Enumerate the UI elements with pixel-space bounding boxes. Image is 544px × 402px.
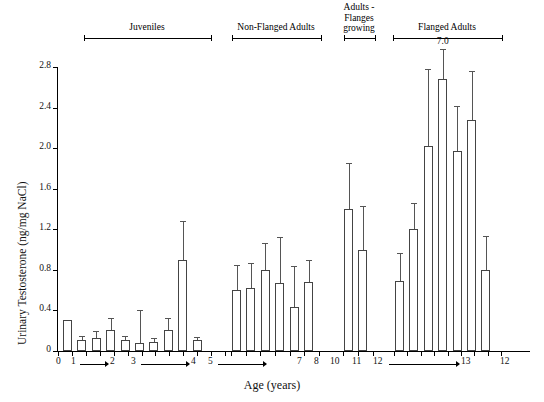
x-axis-label: 10 <box>330 356 340 366</box>
y-tick-label: 2.8 <box>18 60 51 70</box>
error-bar-line <box>265 243 266 269</box>
error-bar-line <box>96 331 97 338</box>
x-range-connector <box>141 362 189 367</box>
bar[interactable] <box>77 340 86 351</box>
x-tick <box>142 351 143 356</box>
bar[interactable] <box>290 307 299 351</box>
bar[interactable] <box>344 209 353 351</box>
error-bar-cap <box>122 336 128 337</box>
error-bar-cap <box>151 338 157 339</box>
x-axis-label: 5 <box>208 356 213 366</box>
x-tick <box>260 351 261 356</box>
x-tick <box>275 351 276 356</box>
y-tick-label: 0 <box>18 344 51 354</box>
y-tick <box>53 310 57 311</box>
error-bar-cap <box>79 336 85 337</box>
x-tick <box>100 351 101 356</box>
error-bar-line <box>428 69 429 146</box>
bar[interactable] <box>304 282 313 351</box>
x-tick <box>86 351 87 356</box>
error-bar-line <box>400 253 401 281</box>
y-tick <box>53 270 57 271</box>
x-range-connector <box>218 362 266 367</box>
y-tick-label: 1.2 <box>18 222 51 232</box>
x-tick <box>319 351 320 356</box>
x-axis-label: 4 <box>191 356 196 366</box>
x-axis-label: 13 <box>461 356 471 366</box>
x-tick <box>434 351 435 356</box>
error-bar-cap <box>194 337 200 338</box>
y-tick <box>53 67 57 68</box>
x-tick <box>304 351 305 356</box>
x-axis-label: 0 <box>56 356 61 366</box>
bar[interactable] <box>92 338 101 351</box>
chart-root: Juveniles Non-Flanged Adults Adults - Fl… <box>0 0 544 402</box>
y-tick <box>53 108 57 109</box>
x-axis-label: 12 <box>500 356 510 366</box>
error-bar-cap <box>277 237 283 238</box>
bar[interactable] <box>232 290 241 351</box>
error-bar-line <box>183 221 184 260</box>
x-axis-label: 12 <box>373 356 383 366</box>
bar[interactable] <box>121 340 130 351</box>
x-tick <box>421 351 422 356</box>
error-bar-line <box>309 260 310 282</box>
y-tick-label: 1.6 <box>18 182 51 192</box>
bar[interactable] <box>481 270 490 351</box>
bar[interactable] <box>409 229 418 351</box>
error-bar-line <box>363 206 364 250</box>
x-tick <box>448 351 449 356</box>
bar[interactable] <box>261 270 270 351</box>
error-bar-line <box>443 49 444 79</box>
x-tick <box>246 351 247 356</box>
bar[interactable] <box>164 330 173 351</box>
error-bar-cap <box>93 331 99 332</box>
x-axis-label: 11 <box>352 356 361 366</box>
x-range-connector <box>80 362 108 367</box>
x-tick <box>488 351 489 356</box>
error-bar-cap <box>108 318 114 319</box>
error-bar-cap <box>234 265 240 266</box>
y-tick-label: 2.0 <box>18 141 51 151</box>
x-axis-title: Age (years) <box>0 378 544 393</box>
bar[interactable] <box>453 151 462 351</box>
x-tick <box>155 351 156 356</box>
x-tick <box>474 351 475 356</box>
error-bar-line <box>251 263 252 288</box>
bar[interactable] <box>358 250 367 351</box>
bar[interactable] <box>193 340 202 351</box>
bar[interactable] <box>135 343 144 351</box>
error-bar-line <box>280 237 281 283</box>
bar[interactable] <box>149 342 158 351</box>
y-tick <box>53 229 57 230</box>
bar[interactable] <box>178 260 187 351</box>
x-axis-label: 3 <box>131 356 136 366</box>
error-bar-cap <box>306 260 312 261</box>
bar[interactable] <box>63 320 72 351</box>
bar[interactable] <box>275 283 284 351</box>
error-bar-cap <box>262 243 268 244</box>
y-tick-label: 0.4 <box>18 303 51 313</box>
y-tick-label: 2.4 <box>18 101 51 111</box>
bar[interactable] <box>424 146 433 351</box>
error-bar-cap <box>454 106 460 107</box>
error-bar-line <box>349 163 350 209</box>
error-bar-line <box>140 310 141 342</box>
error-bar-line <box>237 265 238 290</box>
bar[interactable] <box>395 281 404 351</box>
error-bar-line <box>168 318 169 330</box>
error-bar-line <box>111 318 112 330</box>
error-bar-line <box>414 203 415 229</box>
y-tick-label: 0.8 <box>18 263 51 273</box>
x-tick <box>343 351 344 356</box>
bar[interactable] <box>467 120 476 351</box>
x-axis-label: 2 <box>110 356 115 366</box>
plot-area: 00.40.81.21.62.02.42.87.0012345781011121… <box>0 0 544 402</box>
bar[interactable] <box>438 79 447 351</box>
error-bar-cap <box>483 236 489 237</box>
error-bar-cap <box>137 310 143 311</box>
bar[interactable] <box>106 330 115 351</box>
bar[interactable] <box>246 288 255 351</box>
x-tick <box>231 351 232 356</box>
error-bar-line <box>486 236 487 269</box>
